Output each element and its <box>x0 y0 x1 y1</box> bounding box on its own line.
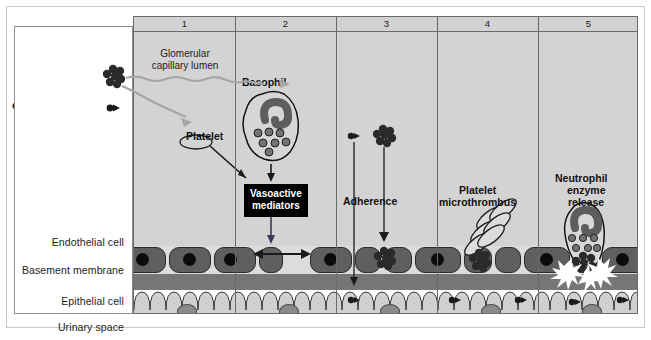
epithelial-nucleus <box>582 304 602 314</box>
panel-number-1: 1 <box>134 18 235 29</box>
endothelial-nucleus <box>183 253 196 266</box>
panel-number-5: 5 <box>538 18 639 29</box>
epithelial-nucleus <box>279 304 299 314</box>
endothelial-cell <box>384 247 412 273</box>
epithelial-nucleus <box>380 304 400 314</box>
endothelial-nucleus <box>540 253 553 266</box>
endothelial-cell <box>259 247 283 273</box>
panel-separator-2 <box>336 32 337 314</box>
panel-body: Glomerular capillary lumen Platelet Baso… <box>133 32 638 314</box>
header-separator-1 <box>235 17 236 33</box>
header-separator-2 <box>336 17 337 33</box>
row-label-column: Endothelial cell Basement membrane Epith… <box>14 26 133 314</box>
panel-header-strip: 1 2 3 4 5 <box>133 16 638 32</box>
neutrophil-release-line3: release <box>568 196 604 208</box>
panel-grid: 1 2 3 4 5 <box>133 16 638 314</box>
row-label-endothelial-cell: Endothelial cell <box>52 236 124 248</box>
endothelial-cell <box>495 247 521 273</box>
panel-number-2: 2 <box>235 18 336 29</box>
endothelial-cell <box>573 247 599 273</box>
endothelial-cell <box>355 247 381 273</box>
neutrophil-release-line2: enzyme <box>567 184 606 196</box>
header-separator-4 <box>538 17 539 33</box>
row-label-epithelial-cell: Epithelial cell <box>61 295 124 307</box>
panel-number-3: 3 <box>336 18 437 29</box>
header-separator-3 <box>437 17 438 33</box>
platelet-microthrombus-line2: microthrombus <box>439 196 516 208</box>
row-label-basement-membrane: Basement membrane <box>22 264 124 276</box>
glomerular-lumen-label-line2: capillary lumen <box>138 60 232 72</box>
adherence-label: Adherence <box>343 195 397 207</box>
basophil-label: Basophil <box>242 76 286 88</box>
platelet-microthrombus-line1: Platelet <box>459 184 496 196</box>
epithelial-nucleus <box>177 304 197 314</box>
vasoactive-mediators-line2: mediators <box>250 200 302 212</box>
figure-root: 1 2 3 4 5 <box>0 0 651 340</box>
panel-separator-3 <box>437 32 438 314</box>
endothelial-nucleus <box>136 253 149 266</box>
epithelial-nucleus <box>481 304 501 314</box>
vasoactive-mediators-line1: Vasoactive <box>250 188 302 200</box>
row-label-urinary-space: Urinary space <box>58 321 124 333</box>
panel-separator-4 <box>538 32 539 314</box>
platelet-label: Platelet <box>186 130 223 142</box>
panel-separator-1 <box>235 32 236 314</box>
endothelial-nucleus <box>616 253 629 266</box>
panel-number-4: 4 <box>437 18 538 29</box>
vasoactive-mediators-box: Vasoactive mediators <box>244 184 308 217</box>
glomerular-lumen-label-line1: Glomerular <box>148 48 222 60</box>
neutrophil-release-line1: Neutrophil <box>555 172 608 184</box>
endothelial-cell <box>464 247 492 273</box>
